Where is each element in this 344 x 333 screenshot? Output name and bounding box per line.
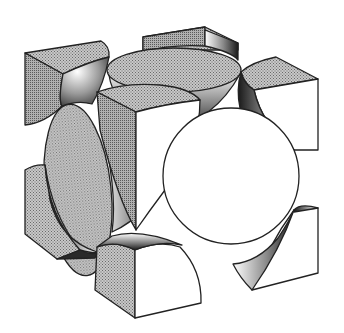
- fcc-unit-cell-diagram: [0, 0, 344, 333]
- corner-atom-bottom-front: [95, 233, 201, 318]
- face-atom-front-right: [163, 108, 299, 244]
